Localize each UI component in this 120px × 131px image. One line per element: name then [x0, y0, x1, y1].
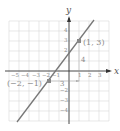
x-tick-label: −5: [11, 73, 19, 79]
y-axis-label: y: [66, 6, 71, 15]
x-tick-label: 3: [98, 73, 102, 79]
point-label-neg2-neg1: (−2, −1): [7, 80, 42, 88]
x-tick-label: 1: [78, 73, 82, 79]
y-tick-label: 4: [64, 28, 68, 34]
x-tick-label: −2: [42, 73, 50, 79]
y-axis-arrow-icon: [67, 16, 71, 22]
point-label-1-3: (1, 3): [83, 39, 105, 47]
y-tick-label: 2: [64, 48, 68, 54]
run-label: 3: [60, 81, 64, 88]
point-neg2-neg1-marker: [47, 79, 51, 83]
y-tick-label: 3: [64, 38, 68, 44]
rise-label: 4: [81, 57, 85, 64]
y-tick-label: −4: [60, 108, 68, 114]
run-arrow-icon: [76, 80, 80, 82]
y-tick-label: −3: [60, 98, 68, 104]
point-1-3-marker: [77, 39, 81, 43]
x-tick-label: −1: [52, 73, 60, 79]
x-tick-label: −4: [21, 73, 29, 79]
axes: [5, 18, 110, 124]
x-tick-label: −3: [32, 73, 40, 79]
x-axis-label: x: [114, 67, 119, 76]
y-tick-label: −2: [60, 88, 68, 94]
x-tick-label: 2: [88, 73, 92, 79]
